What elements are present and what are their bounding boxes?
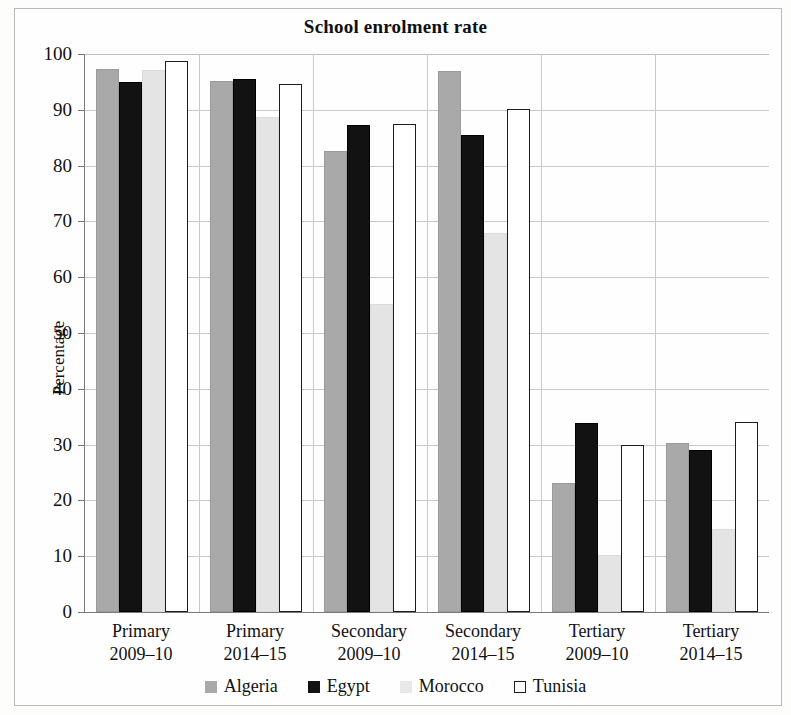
bar-group	[85, 54, 199, 612]
legend-label: Tunisia	[533, 676, 586, 697]
x-category-line: 2014–15	[631, 643, 791, 666]
chart-figure: School enrolment rate Percentage 0102030…	[0, 0, 791, 715]
y-tick-label: 90	[53, 98, 72, 120]
y-tick-label: 100	[44, 43, 73, 65]
legend-label: Egypt	[327, 676, 370, 697]
y-tick	[78, 277, 85, 278]
y-tick	[78, 110, 85, 111]
y-tick	[78, 389, 85, 390]
bar-group	[541, 54, 655, 612]
legend-label: Algeria	[224, 676, 278, 697]
y-tick-label: 70	[53, 210, 72, 232]
group-separator	[655, 54, 656, 612]
plot-area: 0102030405060708090100	[84, 54, 769, 613]
legend-swatch-algeria	[205, 681, 217, 693]
bar-egypt	[347, 125, 370, 612]
bar-group	[427, 54, 541, 612]
legend-swatch-egypt	[308, 681, 320, 693]
x-category-line: Tertiary	[631, 620, 791, 643]
group-separator	[427, 54, 428, 612]
y-tick	[78, 445, 85, 446]
bar-tunisia	[507, 109, 530, 612]
bar-morocco	[370, 304, 393, 612]
bar-morocco	[142, 70, 165, 612]
y-tick-label: 60	[53, 266, 72, 288]
y-tick-label: 20	[53, 489, 72, 511]
legend-item-morocco[interactable]: Morocco	[400, 676, 484, 697]
legend-label: Morocco	[419, 676, 484, 697]
bar-egypt	[689, 450, 712, 612]
x-category-label: Tertiary2014–15	[631, 620, 791, 665]
y-tick-label: 40	[53, 377, 72, 399]
chart-title: School enrolment rate	[0, 16, 791, 38]
bar-algeria	[438, 71, 461, 612]
y-tick	[78, 556, 85, 557]
group-separator	[313, 54, 314, 612]
bar-tunisia	[393, 124, 416, 612]
bar-group	[199, 54, 313, 612]
y-tick-label: 30	[53, 433, 72, 455]
bar-tunisia	[279, 84, 302, 612]
legend-item-tunisia[interactable]: Tunisia	[514, 676, 586, 697]
bar-morocco	[256, 117, 279, 612]
y-tick	[78, 500, 85, 501]
bar-tunisia	[621, 445, 644, 612]
group-separator	[199, 54, 200, 612]
bar-group	[655, 54, 769, 612]
y-tick-label: 50	[53, 322, 72, 344]
bar-morocco	[598, 555, 621, 612]
chart-legend: AlgeriaEgyptMoroccoTunisia	[0, 676, 791, 697]
bar-egypt	[575, 423, 598, 612]
group-separator	[541, 54, 542, 612]
y-tick-label: 10	[53, 545, 72, 567]
bar-algeria	[96, 69, 119, 612]
bar-egypt	[119, 82, 142, 612]
legend-swatch-tunisia	[514, 681, 526, 693]
bar-egypt	[461, 135, 484, 612]
bar-egypt	[233, 79, 256, 612]
y-tick	[78, 166, 85, 167]
bar-algeria	[210, 81, 233, 612]
y-tick	[78, 612, 85, 613]
bar-morocco	[712, 529, 735, 612]
y-tick	[78, 221, 85, 222]
bar-algeria	[324, 151, 347, 612]
legend-item-algeria[interactable]: Algeria	[205, 676, 278, 697]
bar-morocco	[484, 233, 507, 612]
y-tick-label: 80	[53, 154, 72, 176]
bar-tunisia	[165, 61, 188, 612]
bar-group	[313, 54, 427, 612]
bar-tunisia	[735, 422, 758, 612]
y-tick	[78, 54, 85, 55]
bar-algeria	[666, 443, 689, 612]
legend-swatch-morocco	[400, 681, 412, 693]
bar-algeria	[552, 483, 575, 612]
legend-item-egypt[interactable]: Egypt	[308, 676, 370, 697]
y-tick	[78, 333, 85, 334]
